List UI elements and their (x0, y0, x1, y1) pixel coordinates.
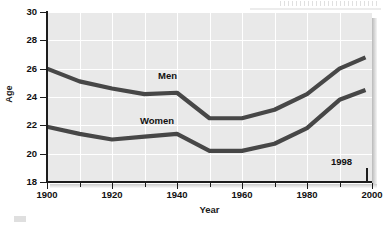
y-axis-tick (40, 97, 47, 98)
x-axis-tick-label: 1980 (287, 189, 327, 200)
x-axis-tick-minor (145, 183, 146, 187)
y-axis-tick-label: 28 (12, 34, 37, 45)
annotation-1998-pointer (366, 168, 368, 182)
y-axis-tick-label: 30 (12, 6, 37, 17)
y-axis-tick (40, 182, 47, 183)
series-line-men (47, 57, 366, 118)
x-axis-tick-minor (275, 183, 276, 187)
x-axis-tick-label: 1940 (157, 189, 197, 200)
y-axis-tick (40, 69, 47, 70)
y-axis-title: Age (4, 74, 14, 114)
y-axis-tick-label: 26 (12, 63, 37, 74)
x-axis-tick-minor (210, 183, 211, 187)
plot-area-shadow-right (372, 18, 377, 184)
y-axis-tick-label: 18 (12, 176, 37, 187)
series-container (47, 12, 372, 182)
y-axis-tick (40, 154, 47, 155)
y-axis-tick (40, 12, 47, 13)
x-axis-title: Year (47, 204, 372, 215)
y-axis-tick (40, 40, 47, 41)
series-label-women: Women (140, 115, 174, 126)
y-axis-tick (40, 125, 47, 126)
series-label-men: Men (158, 70, 177, 81)
x-axis-tick-label: 1960 (222, 189, 262, 200)
x-axis-tick-label: 2000 (352, 189, 387, 200)
y-axis-tick-label: 24 (12, 91, 37, 102)
annotation-1998-label: 1998 (331, 156, 352, 167)
plot-area-shadow-bottom (50, 184, 377, 188)
x-axis-tick-label: 1920 (92, 189, 132, 200)
y-axis-tick-label: 22 (12, 119, 37, 130)
series-line-women (47, 90, 366, 151)
x-axis-tick-minor (340, 183, 341, 187)
x-axis-tick-label: 1900 (27, 189, 67, 200)
y-axis-tick-label: 20 (12, 148, 37, 159)
x-axis-tick-minor (80, 183, 81, 187)
